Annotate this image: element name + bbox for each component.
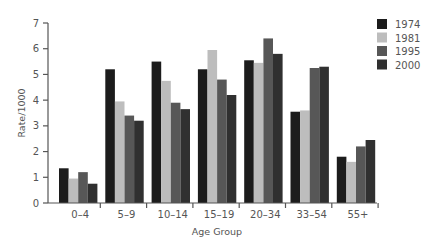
bar-group — [105, 69, 143, 203]
bar-1981 — [346, 162, 356, 203]
bar-1995 — [171, 103, 181, 203]
bar-1995 — [125, 116, 135, 203]
bar-2000 — [227, 95, 237, 203]
legend-item-1995: 1995 — [377, 46, 420, 57]
y-tick-label: 1 — [33, 172, 39, 183]
x-tick-label: 20–34 — [250, 209, 280, 220]
bar-2000 — [180, 109, 190, 203]
y-axis-title: Rate/1000 — [16, 88, 27, 137]
y-tick-label: 2 — [33, 146, 39, 157]
x-tick-label: 15–19 — [204, 209, 234, 220]
x-tick-label: 10–14 — [158, 209, 188, 220]
bars — [59, 38, 375, 203]
y-tick-label: 7 — [33, 18, 39, 29]
bar-1995 — [263, 38, 273, 203]
y-tick-label: 0 — [33, 198, 39, 209]
bar-1995 — [356, 146, 366, 203]
bar-1974 — [244, 60, 254, 203]
y-axis: 01234567 — [33, 18, 48, 209]
bar-group — [198, 50, 236, 203]
legend-item-2000: 2000 — [377, 60, 420, 71]
legend-swatch — [377, 46, 387, 56]
legend-item-1981: 1981 — [377, 33, 420, 44]
legend-label: 1974 — [395, 19, 420, 30]
bar-1981 — [254, 63, 264, 203]
bar-1974 — [105, 69, 115, 203]
bar-1981 — [161, 81, 171, 203]
x-axis-title: Age Group — [192, 226, 242, 237]
y-tick-label: 3 — [33, 120, 39, 131]
bar-1995 — [310, 68, 320, 203]
bar-1974 — [337, 157, 347, 203]
legend-swatch — [377, 33, 387, 43]
x-tick-label: 55+ — [347, 209, 368, 220]
legend-label: 1981 — [395, 33, 420, 44]
bar-1974 — [198, 69, 208, 203]
bar-1981 — [300, 110, 310, 203]
legend: 1974198119952000 — [377, 19, 420, 71]
legend-label: 2000 — [395, 60, 420, 71]
bar-group — [291, 67, 329, 203]
x-tick-label: 33–54 — [296, 209, 326, 220]
y-tick-label: 6 — [33, 43, 39, 54]
bar-2000 — [88, 184, 98, 203]
bar-group — [59, 168, 97, 203]
bar-1981 — [115, 101, 125, 203]
bar-group — [152, 62, 190, 203]
x-tick-label: 5–9 — [118, 209, 136, 220]
bar-1995 — [217, 80, 227, 203]
legend-item-1974: 1974 — [377, 19, 420, 30]
bar-2000 — [366, 140, 376, 203]
bar-1974 — [59, 168, 69, 203]
bar-1974 — [152, 62, 162, 203]
bar-2000 — [134, 121, 144, 203]
legend-label: 1995 — [395, 46, 420, 57]
bar-group — [337, 140, 375, 203]
bar-1974 — [291, 112, 301, 203]
bar-1981 — [69, 179, 79, 203]
y-tick-label: 4 — [33, 95, 39, 106]
grouped-bar-chart: 01234567 0–45–910–1415–1920–3433–5455+ R… — [0, 0, 438, 252]
x-tick-label: 0–4 — [71, 209, 89, 220]
bar-group — [244, 38, 282, 203]
bar-1981 — [208, 50, 218, 203]
bar-1995 — [78, 172, 88, 203]
legend-swatch — [377, 60, 387, 70]
legend-swatch — [377, 19, 387, 29]
y-tick-label: 5 — [33, 69, 39, 80]
bar-2000 — [319, 67, 329, 203]
bar-2000 — [273, 54, 283, 203]
x-axis: 0–45–910–1415–1920–3433–5455+ — [48, 203, 378, 220]
